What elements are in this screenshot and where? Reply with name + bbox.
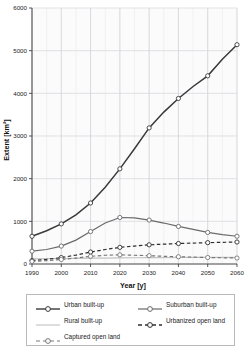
legend-label-urbanized-open-land: Urbanized open land [163, 316, 225, 326]
x-axis-tick-labels: 19902000201020202030204020502060 [25, 269, 244, 276]
x-tick-2040: 2040 [172, 269, 186, 276]
legend-swatch-captured-open-land [35, 332, 61, 342]
x-tick-2060: 2060 [230, 269, 244, 276]
x-tick-1990: 1990 [25, 269, 39, 276]
legend-item-suburban-built-up: Suburban built-up [137, 299, 216, 311]
legend-item-urban-built-up: Urban built-up [35, 299, 104, 311]
x-tick-2030: 2030 [142, 269, 156, 276]
chart-legend: Urban built-up Suburban built-up Ru [26, 294, 235, 346]
x-tick-2000: 2000 [54, 269, 68, 276]
y-tick-6000: 6000 [13, 4, 27, 11]
legend-item-captured-open-land: Captured open land [35, 331, 120, 343]
y-axis-tick-labels: 0100020003000400050006000 [13, 4, 27, 267]
legend-grid: Urban built-up Suburban built-up Ru [27, 295, 234, 345]
legend-swatch-urban-built-up [35, 300, 61, 310]
y-tick-2000: 2000 [13, 175, 27, 182]
legend-swatch-rural-built-up [35, 316, 61, 326]
y-tick-0: 0 [24, 260, 28, 267]
legend-label-rural-built-up: Rural built-up [61, 316, 102, 326]
x-tick-2020: 2020 [113, 269, 127, 276]
legend-label-suburban-built-up: Suburban built-up [163, 300, 216, 310]
y-axis-title: Extent [km²] [2, 119, 11, 161]
legend-swatch-urbanized-open-land [137, 316, 163, 326]
chart-figure: 19902000201020202030204020502060 0100020… [0, 0, 245, 354]
x-axis-title: Year [y] [120, 281, 146, 290]
legend-item-urbanized-open-land: Urbanized open land [137, 315, 225, 327]
x-tick-2050: 2050 [201, 269, 215, 276]
y-tick-4000: 4000 [13, 90, 27, 97]
legend-label-captured-open-land: Captured open land [61, 332, 120, 342]
line-chart-plot: 19902000201020202030204020502060 0100020… [0, 0, 245, 294]
x-tick-2010: 2010 [84, 269, 98, 276]
legend-item-rural-built-up: Rural built-up [35, 315, 102, 327]
y-tick-1000: 1000 [13, 218, 27, 225]
legend-label-urban-built-up: Urban built-up [61, 300, 104, 310]
y-tick-5000: 5000 [13, 47, 27, 54]
y-tick-3000: 3000 [13, 132, 27, 139]
legend-swatch-suburban-built-up [137, 300, 163, 310]
